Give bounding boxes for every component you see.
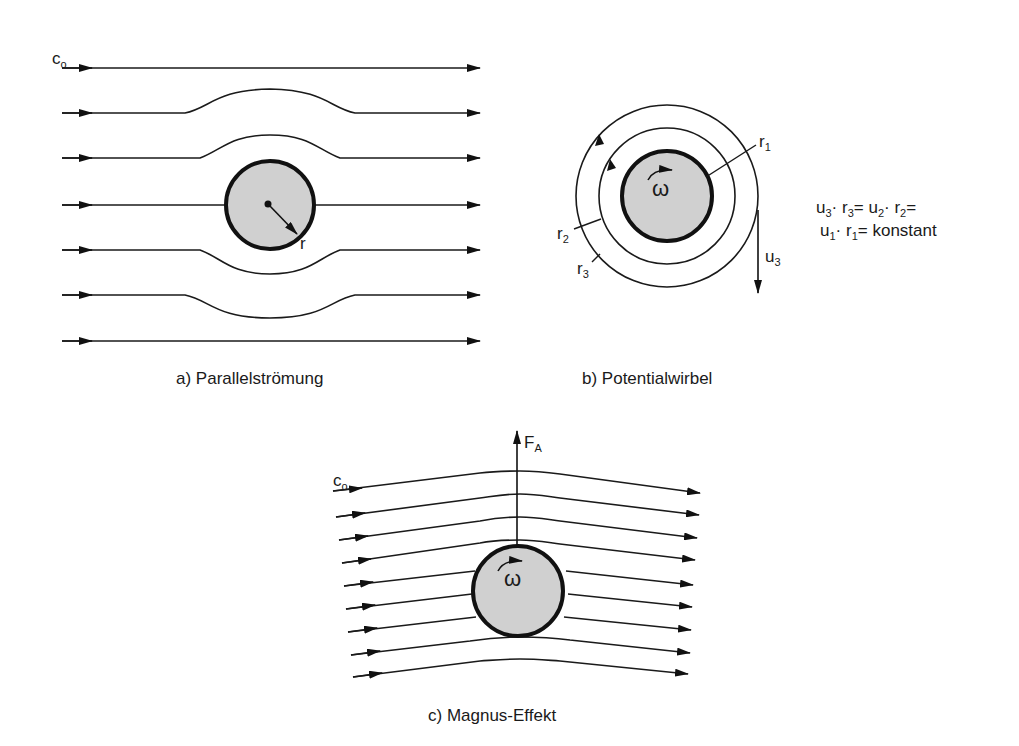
u3-label: u3 [765,247,781,268]
radius-label: r [300,234,306,253]
omega-label: ω [504,566,521,591]
inflow-velocity-label: co [333,471,348,492]
caption-panel-c: c) Magnus-Effekt [428,706,556,725]
caption-panel-a: a) Parallelströmung [176,369,323,388]
r3-leader-line [592,254,600,262]
inflow-velocity-label: co [52,49,67,70]
caption-panel-b: b) Potentialwirbel [582,369,712,388]
r1-label: r1 [759,132,771,153]
omega-label: ω [652,176,669,201]
r2-leader-line [574,219,601,229]
r2-label: r2 [557,224,569,245]
rotating-cylinder [473,546,563,636]
r3-label: r3 [577,259,589,280]
panel-potential-vortex: ω r1 r2 r3 u3 u3· r3= u2· r2= u1· r1= ko… [557,105,937,388]
ring-arrow-icon [595,134,604,146]
equation-line-2: u1· r1= konstant [820,221,937,242]
figure-canvas: r co a) Parallelströmung ω r1 r2 r3 u3 u… [0,0,1019,746]
lift-force-label: FA [524,433,542,454]
equation-line-1: u3· r3= u2· r2= [816,198,916,219]
panel-magnus-effect: ω FA co c) Magnus-Effekt [333,431,700,725]
panel-parallel-flow: r co a) Parallelströmung [52,49,480,388]
